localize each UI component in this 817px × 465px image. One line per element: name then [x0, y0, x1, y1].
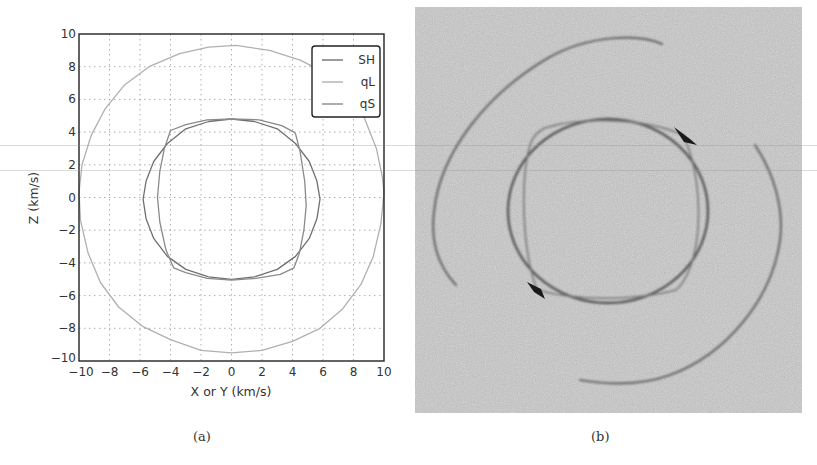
x-tick-label: 6	[319, 365, 327, 379]
x-tick-label: 4	[289, 365, 297, 379]
legend-label-qL: qL	[361, 75, 376, 89]
x-tick-label: 8	[350, 365, 358, 379]
y-tick-label: 0	[68, 191, 76, 205]
y-tick-labels: −10−8−6−4−20246810	[51, 27, 76, 365]
x-tick-label: −6	[131, 365, 149, 379]
x-tick-label: −10	[68, 365, 93, 379]
x-tick-label: 0	[228, 365, 236, 379]
x-tick-label: 10	[376, 365, 391, 379]
x-tick-label: 2	[258, 365, 266, 379]
x-tick-label: −8	[101, 365, 119, 379]
x-tick-label: −2	[192, 365, 210, 379]
legend: SHqLqS	[312, 46, 380, 117]
legend-label-SH: SH	[358, 53, 375, 67]
y-tick-label: 10	[61, 27, 76, 41]
x-tick-labels: −10−8−6−4−20246810	[68, 365, 391, 379]
x-tick-label: −4	[162, 365, 180, 379]
y-tick-label: 6	[68, 92, 76, 106]
caption-a: (a)	[193, 429, 211, 444]
x-axis-label: X or Y (km/s)	[191, 384, 272, 399]
y-axis-label: Z (km/s)	[26, 172, 41, 224]
image-noise	[415, 7, 802, 413]
y-tick-label: 4	[68, 125, 76, 139]
y-tick-label: −6	[58, 289, 76, 303]
scan-artifact-line	[0, 145, 817, 146]
y-tick-label: 8	[68, 60, 76, 74]
y-tick-label: −4	[58, 256, 76, 270]
caption-b: (b)	[591, 429, 609, 444]
scan-artifact-line	[0, 170, 817, 171]
panel-a-chart: −10−8−6−4−20246810 −10−8−6−4−20246810 X …	[0, 0, 405, 465]
legend-label-qS: qS	[360, 97, 375, 111]
panel-b-wavefront-image	[405, 0, 817, 465]
y-tick-label: −8	[58, 321, 76, 335]
y-tick-label: −10	[51, 351, 76, 365]
y-tick-label: −2	[58, 223, 76, 237]
